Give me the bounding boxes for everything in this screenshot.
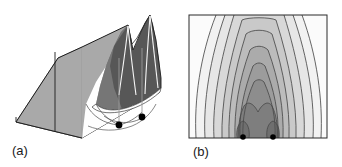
panel-a-surface-plot: (a) xyxy=(0,0,176,167)
panel-a-label: (a) xyxy=(12,144,28,157)
contour-map-graphic xyxy=(176,0,342,167)
source-point-2-marker xyxy=(270,134,276,140)
source-point-2-marker xyxy=(139,114,146,121)
contour-bands xyxy=(189,15,327,138)
surface-3d-graphic xyxy=(0,0,176,167)
source-point-1-marker xyxy=(116,122,123,129)
panel-b-contour-plot: (b) xyxy=(176,0,342,167)
figure-container: (a) xyxy=(0,0,342,167)
source-point-1-marker xyxy=(240,134,246,140)
panel-b-label: (b) xyxy=(193,145,209,158)
